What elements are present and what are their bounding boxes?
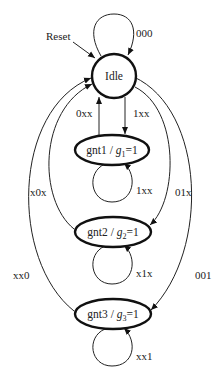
edge-label-01x: 01x <box>175 186 192 198</box>
edge-gnt1-gnt1: 1xx <box>93 163 153 202</box>
edge-gnt3-gnt3: xx1 <box>93 328 153 366</box>
edge-label-x1x: x1x <box>136 267 153 279</box>
edge-label-001: 001 <box>195 269 212 281</box>
edge-label-000: 000 <box>136 27 153 39</box>
reset-label: Reset <box>46 30 70 42</box>
edge-label-1xx-self: 1xx <box>136 184 153 196</box>
edge-label-0xx: 0xx <box>76 107 93 119</box>
edge-label-xx1: xx1 <box>136 350 153 362</box>
edge-label-1xx: 1xx <box>133 107 150 119</box>
edge-gnt2-gnt2: x1x <box>93 245 153 284</box>
node-gnt3: gnt3 / g3=1 <box>75 299 151 329</box>
node-gnt2: gnt2 / g2=1 <box>75 217 151 247</box>
edge-idle-idle: 000 <box>94 14 153 56</box>
edge-label-x0x: x0x <box>30 186 47 198</box>
reset-arrow: Reset <box>46 30 95 58</box>
node-gnt1: gnt1 / g1=1 <box>75 135 149 165</box>
edge-label-xx0: xx0 <box>13 269 30 281</box>
edge-gnt1-idle: 0xx <box>76 97 99 135</box>
node-idle: Idle <box>92 54 136 98</box>
edge-idle-gnt1: 1xx <box>125 97 150 134</box>
state-diagram: Reset 000 1xx 0xx 1xx 01x x0x x1x 001 <box>0 0 224 384</box>
node-idle-label: Idle <box>105 70 123 82</box>
